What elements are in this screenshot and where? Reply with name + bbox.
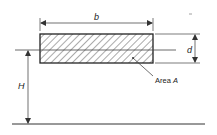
width-label: b	[94, 12, 99, 22]
depth-dimension	[155, 34, 200, 63]
area-label: Area A	[155, 76, 178, 85]
height-label: H	[18, 81, 25, 91]
area-label-symbol: A	[172, 76, 178, 85]
area-label-prefix: Area	[155, 76, 173, 85]
diagram-canvas: b d H Area A	[0, 0, 217, 135]
hatched-rectangle	[40, 34, 153, 63]
cross-section	[40, 34, 153, 63]
depth-label: d	[187, 45, 193, 55]
